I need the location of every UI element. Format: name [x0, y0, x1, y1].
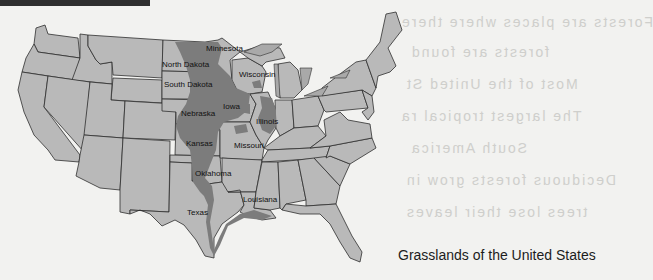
label-kansas: Kansas — [186, 139, 213, 148]
label-nebraska: Nebraska — [181, 109, 215, 118]
label-south-dakota: South Dakota — [164, 80, 212, 89]
label-iowa: Iowa — [223, 102, 240, 111]
label-missouri: Missouri — [234, 141, 264, 150]
label-minnesota: Minnesota — [206, 44, 243, 53]
label-louisiana: Louisiana — [243, 195, 277, 204]
label-north-dakota: North Dakota — [162, 60, 209, 69]
map-caption: Grasslands of the United States — [398, 247, 596, 263]
label-illinois: Illinois — [256, 117, 278, 126]
label-oklahoma: Oklahoma — [195, 169, 231, 178]
label-texas: Texas — [187, 208, 208, 217]
label-wisconsin: Wisconsin — [239, 70, 275, 79]
